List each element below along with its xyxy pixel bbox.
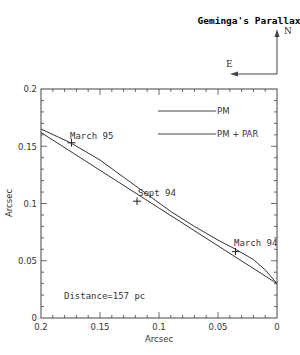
compass-east-label: E xyxy=(226,59,233,69)
y-axis-label: Arcsec xyxy=(4,189,14,217)
chart-title: Geminga's Parallax xyxy=(198,15,300,26)
data-point-march94 xyxy=(232,248,239,255)
x-tick-label: 0 xyxy=(274,322,279,332)
y-tick-label: 0.2 xyxy=(23,84,37,94)
x-tick-label: 0.1 xyxy=(152,322,166,332)
parallax-chart: Geminga's Parallax N E xyxy=(0,0,300,355)
y-tick-label: 0.15 xyxy=(18,142,37,152)
y-tick-label: 0.05 xyxy=(18,256,37,266)
x-tick-label: 0.15 xyxy=(91,322,110,332)
point-label-sept94: Sept 94 xyxy=(138,188,176,198)
x-tick-label: 0.2 xyxy=(34,322,48,332)
series-pm-line xyxy=(41,133,277,284)
compass-icon: N E xyxy=(226,26,292,77)
y-tick-label: 0 xyxy=(32,313,37,323)
y-tick-label: 0.1 xyxy=(23,199,37,209)
compass-north-label: N xyxy=(284,26,292,36)
point-label-march95: March 95 xyxy=(70,131,113,141)
legend-pmpar-label: PM + PAR xyxy=(217,129,258,139)
data-point-sept94 xyxy=(133,198,141,206)
legend: PM PM + PAR xyxy=(158,106,258,139)
x-axis-label: Arcsec xyxy=(145,334,173,344)
legend-pm-label: PM xyxy=(217,106,229,116)
x-tick-label: 0.05 xyxy=(209,322,228,332)
distance-annotation: Distance=157 pc xyxy=(64,291,145,301)
point-label-march94: March 94 xyxy=(234,238,277,248)
